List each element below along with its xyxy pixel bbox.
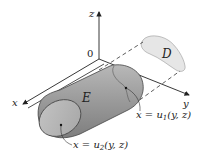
type-1-solid-diagram: z 0 D y x E x = u1(y, z) x = u2(y, z) — [0, 0, 202, 162]
front-surface-label: x = u2(y, z) — [73, 139, 128, 152]
x-axis-label: x — [12, 97, 18, 108]
back-surface-label: x = u1(y, z) — [136, 109, 191, 122]
solid-region-label: E — [81, 91, 91, 105]
origin-label: 0 — [87, 48, 93, 59]
y-axis-label: y — [182, 98, 189, 109]
projection-region-label: D — [161, 47, 172, 61]
z-axis-label: z — [88, 8, 95, 19]
